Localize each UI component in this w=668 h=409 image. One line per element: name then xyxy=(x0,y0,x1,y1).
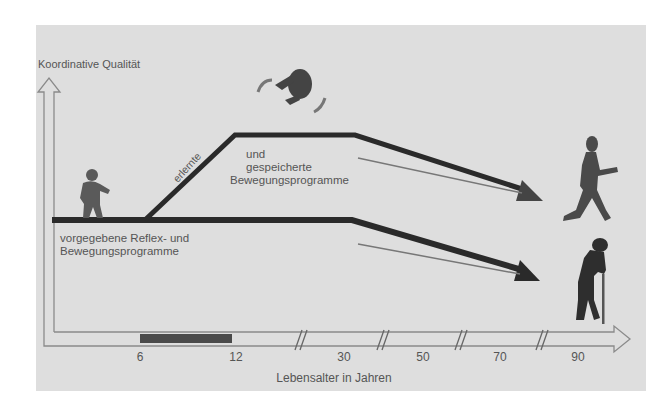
upper-band-label-line1: und xyxy=(246,148,265,161)
lower-band-label-line1: vorgegebene Reflex- und xyxy=(60,232,189,245)
x-tick-50: 50 xyxy=(416,350,429,364)
axis-break-marks xyxy=(295,330,548,350)
x-tick-6: 6 xyxy=(137,350,144,364)
upper-band-label-line3: Bewegungsprogramme xyxy=(230,174,349,187)
range-bar-6-12 xyxy=(140,334,232,343)
x-tick-12: 12 xyxy=(229,350,242,364)
x-tick-30: 30 xyxy=(337,350,350,364)
elderly-with-cane-icon xyxy=(576,238,608,324)
y-axis-arrow xyxy=(38,78,60,340)
walking-elderly-icon xyxy=(563,136,618,221)
lower-band-label-line2: Bewegungsprogramme xyxy=(60,245,179,258)
upper-band-label-line2: gespeicherte xyxy=(246,161,312,174)
x-tick-90: 90 xyxy=(571,350,584,364)
tumbling-figure-icon xyxy=(258,69,325,112)
x-axis-label: Lebensalter in Jahren xyxy=(276,372,391,385)
toddler-icon xyxy=(80,169,110,218)
x-tick-70: 70 xyxy=(493,350,506,364)
y-axis-label: Koordinative Qualität xyxy=(38,58,140,71)
